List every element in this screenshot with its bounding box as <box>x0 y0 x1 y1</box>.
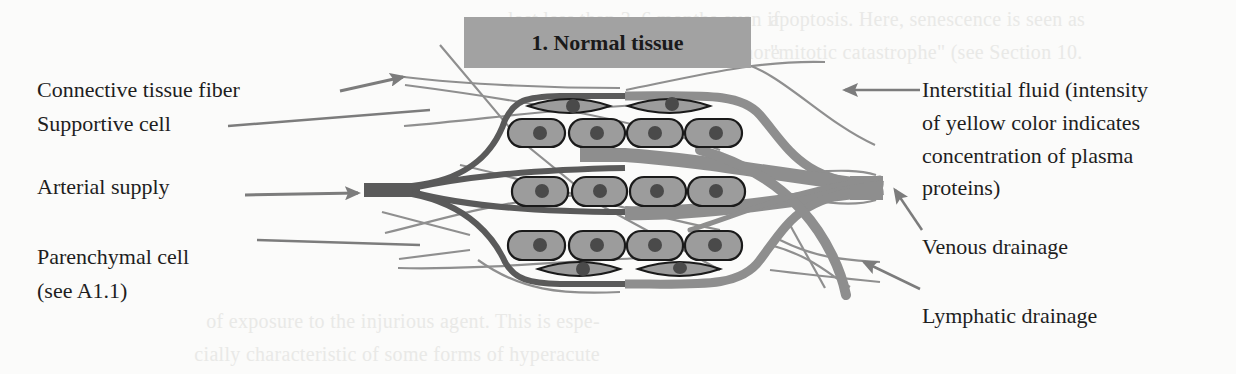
label-arterial-supply: Arterial supply <box>37 170 170 203</box>
pointer-supportive-cell <box>228 110 430 126</box>
label-venous-drainage: Venous drainage <box>922 230 1068 263</box>
diagram-title: 1. Normal tissue <box>531 30 683 56</box>
pointer-lymphatic-drainage <box>864 262 920 289</box>
label-interstitial-fluid-line2: of yellow color indicates <box>922 106 1140 139</box>
pointer-parenchymal-cell <box>257 240 420 245</box>
label-connective-tissue-fiber: Connective tissue fiber <box>37 73 240 106</box>
supportive-cell <box>528 99 610 113</box>
pointer-connective-tissue-fiber <box>340 77 403 91</box>
label-interstitial-fluid-line3: concentration of plasma <box>922 139 1133 172</box>
pointer-venous-drainage <box>895 190 922 230</box>
label-parenchymal-cell-reference: (see A1.1) <box>37 274 127 307</box>
label-interstitial-fluid-line1: Interstitial fluid (intensity <box>922 73 1148 106</box>
diagram-title-box: 1. Normal tissue <box>464 17 751 68</box>
label-lymphatic-drainage: Lymphatic drainage <box>922 299 1097 332</box>
pointer-arterial-supply <box>245 193 358 195</box>
label-interstitial-fluid-line4: proteins) <box>922 171 1000 204</box>
label-supportive-cell: Supportive cell <box>37 107 171 140</box>
label-parenchymal-cell: Parenchymal cell <box>37 240 189 273</box>
